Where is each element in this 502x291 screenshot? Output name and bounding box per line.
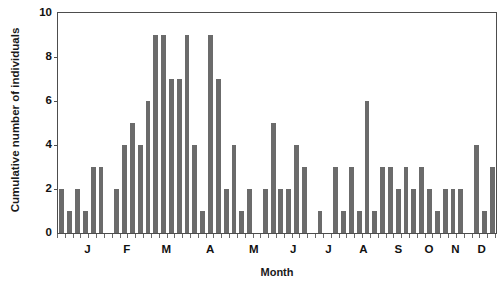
x-tick-mark	[409, 234, 410, 238]
bar	[130, 123, 135, 233]
bar	[271, 123, 276, 233]
bar	[318, 211, 323, 233]
x-tick-mark	[440, 234, 441, 238]
bar	[192, 145, 197, 233]
x-tick-mark	[245, 234, 246, 238]
bar	[451, 189, 456, 233]
x-tick-mark	[127, 234, 128, 238]
bar	[490, 167, 495, 233]
y-axis-tick-labels: 0246810	[24, 0, 52, 241]
x-tick-mark	[143, 234, 144, 238]
bar	[411, 189, 416, 233]
bar	[185, 35, 190, 233]
bar	[114, 189, 119, 233]
x-tick-mark	[206, 234, 207, 238]
x-tick-mark	[221, 234, 222, 238]
bar	[224, 189, 229, 233]
plot-area	[57, 12, 497, 234]
x-tick-mark	[213, 234, 214, 238]
y-tick-label: 4	[24, 138, 52, 150]
x-tick-mark	[401, 234, 402, 238]
x-tick-mark	[96, 234, 97, 238]
month-label: M	[161, 243, 171, 255]
x-tick-mark	[57, 234, 58, 238]
month-label: A	[359, 243, 367, 255]
x-tick-mark	[88, 234, 89, 238]
x-tick-mark	[432, 234, 433, 238]
x-tick-mark	[253, 234, 254, 238]
bar	[380, 167, 385, 233]
x-tick-mark	[393, 234, 394, 238]
month-label: D	[477, 243, 485, 255]
bar	[302, 167, 307, 233]
x-tick-mark	[315, 234, 316, 238]
bar	[419, 167, 424, 233]
x-tick-mark	[472, 234, 473, 238]
bar	[138, 145, 143, 233]
x-tick-mark	[386, 234, 387, 238]
bar	[388, 167, 393, 233]
x-axis-month-labels: JFMAMJJASOND	[57, 243, 497, 261]
x-tick-mark	[479, 234, 480, 238]
bar	[91, 167, 96, 233]
y-tick-mark	[54, 189, 58, 190]
month-label: N	[451, 243, 459, 255]
bar	[216, 79, 221, 233]
bar	[161, 35, 166, 233]
bar	[177, 79, 182, 233]
x-tick-mark	[151, 234, 152, 238]
x-tick-mark	[167, 234, 168, 238]
y-tick-label: 2	[24, 182, 52, 194]
bar	[239, 211, 244, 233]
bar	[263, 189, 268, 233]
y-tick-mark	[54, 145, 58, 146]
x-tick-mark	[276, 234, 277, 238]
bar	[474, 145, 479, 233]
bar	[365, 101, 370, 233]
bar	[59, 189, 64, 233]
x-tick-mark	[120, 234, 121, 238]
bar	[232, 145, 237, 233]
bar	[67, 211, 72, 233]
x-tick-mark	[339, 234, 340, 238]
bar-chart-figure: Cumulative number of individuals 0246810…	[0, 0, 502, 291]
y-tick-label: 6	[24, 94, 52, 106]
bar-series	[58, 13, 496, 233]
month-label: O	[425, 243, 434, 255]
month-label: S	[395, 243, 403, 255]
x-tick-mark	[354, 234, 355, 238]
bar	[286, 189, 291, 233]
x-tick-mark	[487, 234, 488, 238]
month-label: J	[290, 243, 296, 255]
month-label: F	[123, 243, 130, 255]
x-tick-mark	[135, 234, 136, 238]
x-tick-mark	[159, 234, 160, 238]
bar	[396, 189, 401, 233]
x-tick-mark	[448, 234, 449, 238]
x-tick-mark	[174, 234, 175, 238]
bar	[458, 189, 463, 233]
bar	[372, 211, 377, 233]
x-tick-mark	[425, 234, 426, 238]
x-tick-mark	[260, 234, 261, 238]
bar	[482, 211, 487, 233]
x-tick-mark	[346, 234, 347, 238]
bar	[294, 145, 299, 233]
x-tick-mark	[378, 234, 379, 238]
month-label: A	[206, 243, 214, 255]
x-tick-mark	[307, 234, 308, 238]
x-tick-mark	[268, 234, 269, 238]
y-tick-mark	[54, 101, 58, 102]
x-tick-mark	[456, 234, 457, 238]
bar	[208, 35, 213, 233]
x-tick-mark	[73, 234, 74, 238]
x-tick-mark	[292, 234, 293, 238]
x-tick-mark	[299, 234, 300, 238]
month-label: J	[84, 243, 90, 255]
x-tick-mark	[323, 234, 324, 238]
bar	[153, 35, 158, 233]
y-tick-label: 8	[24, 50, 52, 62]
bar	[146, 101, 151, 233]
bar	[435, 211, 440, 233]
x-tick-mark	[284, 234, 285, 238]
